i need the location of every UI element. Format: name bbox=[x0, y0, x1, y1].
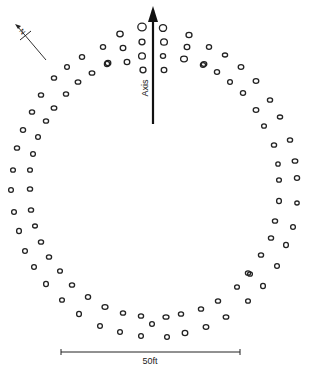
post-hole-icon bbox=[27, 187, 32, 191]
post-hole-icon bbox=[184, 44, 190, 49]
post-hole-icon bbox=[77, 311, 82, 316]
post-hole-icon bbox=[203, 325, 209, 330]
post-hole-icon bbox=[29, 110, 34, 114]
post-hole-icon bbox=[75, 80, 81, 84]
scale-bar: 50ft bbox=[61, 349, 240, 366]
post-hole-icon bbox=[63, 92, 68, 96]
post-hole-icon bbox=[277, 198, 282, 203]
post-hole-icon bbox=[160, 54, 165, 59]
post-hole-icon bbox=[253, 79, 259, 84]
post-hole-icon bbox=[272, 219, 277, 223]
post-hole-icon bbox=[12, 210, 17, 215]
post-hole-icon bbox=[60, 298, 65, 302]
post-hole-icon bbox=[43, 119, 48, 123]
post-hole-icon bbox=[28, 168, 33, 172]
post-hole-icon bbox=[65, 65, 70, 70]
post-hole-icon bbox=[235, 285, 240, 289]
post-hole-icon bbox=[46, 255, 51, 259]
post-hole-icon bbox=[14, 146, 19, 150]
post-hole-icon bbox=[295, 201, 299, 205]
post-hole-icon bbox=[58, 269, 63, 273]
post-hole-icon bbox=[253, 108, 259, 113]
post-hole-icon bbox=[161, 67, 167, 72]
post-hole-icon bbox=[276, 162, 280, 166]
post-hole-icon bbox=[214, 70, 219, 75]
post-hole-icon bbox=[206, 45, 211, 50]
post-hole-icon bbox=[124, 59, 130, 64]
post-hole-icon bbox=[163, 315, 169, 319]
post-hole-icon bbox=[38, 93, 43, 97]
post-hole-icon bbox=[215, 299, 220, 303]
post-hole-icon bbox=[139, 39, 145, 45]
post-hole-icon bbox=[51, 76, 56, 80]
post-hole-icon bbox=[31, 152, 36, 157]
post-hole-icon bbox=[51, 106, 57, 110]
post-hole-icon bbox=[228, 80, 233, 85]
post-hole-icon bbox=[287, 138, 292, 142]
post-hole-icon bbox=[159, 25, 166, 32]
post-hole-icon bbox=[140, 67, 146, 73]
post-hole-icon bbox=[32, 265, 37, 270]
post-hole-icon bbox=[178, 312, 183, 316]
post-hole-icon bbox=[284, 242, 289, 247]
post-hole-icon bbox=[294, 176, 299, 181]
post-ring-plan: Axis N 50ft bbox=[0, 0, 309, 371]
post-hole-icon bbox=[20, 128, 25, 133]
post-hole-icon bbox=[28, 208, 33, 212]
axis-arrowhead-icon bbox=[148, 6, 158, 22]
post-hole-icon bbox=[138, 314, 143, 318]
post-hole-icon bbox=[102, 305, 108, 310]
post-hole-icon bbox=[277, 178, 282, 182]
post-hole-icon bbox=[118, 330, 123, 335]
post-hole-icon bbox=[182, 330, 188, 335]
north-arrow: N bbox=[15, 24, 46, 60]
post-hole-icon bbox=[246, 299, 251, 303]
post-hole-icon bbox=[150, 322, 155, 327]
post-hole-icon bbox=[100, 45, 105, 50]
post-hole-icon bbox=[275, 264, 280, 269]
post-hole-icon bbox=[262, 124, 267, 128]
post-hole-icon bbox=[161, 39, 168, 45]
post-hole-icon bbox=[44, 281, 49, 286]
post-hole-icon bbox=[85, 295, 90, 300]
post-hole-icon bbox=[277, 115, 282, 119]
post-hole-icon bbox=[79, 55, 84, 60]
post-hole-icon bbox=[36, 135, 41, 140]
post-hole-icon bbox=[69, 283, 74, 287]
post-hole-icon bbox=[89, 71, 95, 75]
post-hole-icon bbox=[268, 236, 273, 240]
post-hole-icon bbox=[98, 324, 103, 329]
scale-bar-label: 50ft bbox=[142, 356, 158, 366]
post-hole-icon bbox=[11, 168, 16, 172]
post-hole-icon bbox=[198, 307, 203, 311]
post-hole-icon bbox=[138, 23, 146, 31]
post-hole-icon bbox=[181, 56, 188, 62]
post-hole-icon bbox=[258, 253, 263, 257]
post-hole-icon bbox=[23, 249, 28, 254]
post-hole-icon bbox=[222, 53, 227, 57]
post-hole-icon bbox=[238, 65, 244, 70]
axis-label: Axis bbox=[140, 79, 150, 97]
post-holes bbox=[9, 23, 300, 339]
post-hole-icon bbox=[139, 334, 144, 339]
post-hole-icon bbox=[223, 315, 229, 319]
post-hole-icon bbox=[139, 53, 146, 59]
post-hole-icon bbox=[120, 311, 125, 315]
post-hole-icon bbox=[165, 335, 170, 340]
post-hole-icon bbox=[261, 283, 266, 288]
post-hole-icon bbox=[240, 91, 245, 96]
post-hole-icon bbox=[271, 143, 276, 147]
post-hole-icon bbox=[33, 224, 38, 228]
post-hole-icon bbox=[120, 45, 126, 50]
post-hole-icon bbox=[9, 188, 14, 193]
post-hole-icon bbox=[291, 225, 296, 230]
post-hole-icon bbox=[38, 240, 43, 244]
post-hole-icon bbox=[267, 98, 272, 102]
post-hole-icon bbox=[17, 228, 22, 233]
post-hole-icon bbox=[117, 31, 123, 37]
north-arrow-head-icon bbox=[15, 24, 21, 29]
post-hole-icon bbox=[292, 159, 298, 163]
post-hole-icon bbox=[186, 32, 192, 37]
